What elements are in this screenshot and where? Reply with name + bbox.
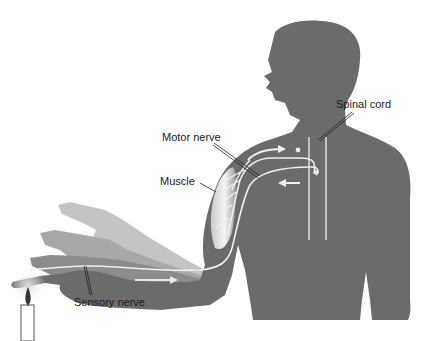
label-spinal-cord: Spinal cord [336,99,391,110]
body-silhouette [11,20,410,320]
synapse-node [296,148,301,153]
label-muscle: Muscle [160,176,195,187]
leader-muscle [200,183,216,192]
label-motor-nerve: Motor nerve [162,132,221,143]
synapse-star [314,170,318,174]
reflex-arc-diagram [0,0,422,341]
label-sensory-nerve: Sensory nerve [74,297,145,308]
candle-body [21,305,34,341]
